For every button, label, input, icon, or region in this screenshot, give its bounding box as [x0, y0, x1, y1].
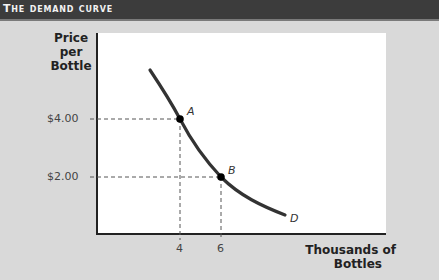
y-tick-2: $2.00 — [47, 170, 79, 183]
y-axis-label-line-2: per — [50, 45, 92, 59]
point-b — [217, 173, 225, 181]
x-tick-4: 4 — [176, 242, 183, 255]
curve-d-label: D — [290, 212, 298, 225]
point-b-label: B — [228, 164, 236, 177]
point-a — [176, 115, 184, 123]
y-axis-label-line-3: Bottle — [50, 59, 92, 73]
x-axis-label-line-2: Bottles — [296, 257, 396, 271]
plot-area — [97, 33, 386, 234]
x-tick-6: 6 — [217, 242, 224, 255]
x-axis-label: Thousands of Bottles — [296, 243, 396, 271]
point-a-label: A — [186, 105, 195, 118]
y-tick-4: $4.00 — [47, 112, 79, 125]
y-axis-label-line-1: Price — [50, 31, 92, 45]
y-axis-label: Price per Bottle — [50, 31, 92, 73]
x-axis-label-line-1: Thousands of — [305, 243, 396, 257]
